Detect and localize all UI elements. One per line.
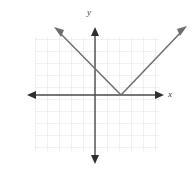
y-axis-label: y (86, 7, 91, 17)
coordinate-plane-svg: y x (0, 0, 193, 176)
grid-area (35, 37, 159, 151)
x-axis-label: x (167, 89, 172, 99)
graph-figure: y x (0, 0, 193, 176)
